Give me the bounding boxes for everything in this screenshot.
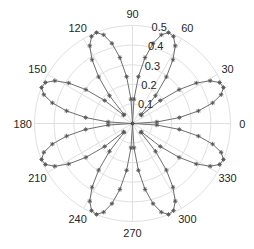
asterisk-marker (103, 98, 107, 102)
r-tick-label: 0.3 (145, 60, 160, 72)
asterisk-marker (67, 162, 71, 166)
asterisk-marker (42, 92, 46, 96)
asterisk-marker (94, 30, 98, 34)
theta-tick-label: 150 (28, 63, 46, 75)
asterisk-marker (159, 210, 163, 214)
asterisk-marker (96, 168, 100, 172)
theta-tick-label: 90 (126, 8, 138, 20)
asterisk-marker (88, 44, 92, 48)
theta-tick-label: 30 (221, 63, 233, 75)
asterisk-marker (110, 41, 114, 45)
asterisk-marker (171, 34, 175, 38)
asterisk-marker (83, 127, 87, 131)
asterisk-marker (196, 134, 200, 138)
asterisk-marker (53, 79, 57, 83)
asterisk-marker (177, 155, 181, 159)
asterisk-marker (177, 115, 181, 119)
asterisk-marker (43, 162, 47, 166)
asterisk-marker (153, 94, 157, 98)
asterisk-marker (132, 146, 136, 150)
asterisk-marker (194, 81, 198, 85)
asterisk-marker (217, 80, 221, 84)
theta-tick-label: 270 (123, 227, 141, 239)
asterisk-marker (158, 98, 162, 102)
asterisk-marker (158, 144, 162, 148)
asterisk-marker (106, 123, 110, 127)
theta-tick-label: 210 (28, 172, 46, 184)
asterisk-marker (166, 212, 170, 216)
theta-tick-label: 0 (239, 118, 245, 130)
asterisk-marker (129, 97, 133, 101)
r-tick-label: 0.4 (148, 40, 163, 52)
theta-tick-label: 60 (181, 22, 193, 34)
asterisk-marker (136, 74, 140, 78)
asterisk-marker (124, 168, 128, 172)
polar-plot: 0306090120150180210240270300330 0.10.20.… (0, 0, 254, 249)
asterisk-marker (96, 75, 100, 79)
asterisk-marker (217, 162, 221, 166)
asterisk-marker (90, 185, 94, 189)
asterisk-marker (164, 168, 168, 172)
asterisk-marker (107, 94, 111, 98)
asterisk-marker (84, 87, 88, 91)
asterisk-marker (194, 162, 198, 166)
asterisk-marker (208, 164, 212, 168)
asterisk-marker (136, 168, 140, 172)
asterisk-marker (43, 80, 47, 84)
r-tick-label: 0.1 (138, 98, 153, 110)
asterisk-marker (196, 109, 200, 113)
theta-tick-label: 240 (68, 213, 86, 225)
asterisk-marker (171, 58, 175, 62)
asterisk-marker (219, 150, 223, 154)
asterisk-marker (103, 144, 107, 148)
asterisk-marker (153, 149, 157, 153)
asterisk-marker (94, 212, 98, 216)
asterisk-marker (39, 85, 43, 89)
asterisk-marker (164, 75, 168, 79)
asterisk-marker (173, 44, 177, 48)
theta-tick-label: 180 (14, 118, 32, 130)
theta-tick-label: 120 (68, 22, 86, 34)
asterisk-marker (84, 155, 88, 159)
asterisk-marker (221, 85, 225, 89)
asterisk-marker (50, 142, 54, 146)
theta-tick-label: 330 (218, 172, 236, 184)
r-tick-label: 0.2 (141, 79, 156, 91)
asterisk-marker (50, 101, 54, 105)
asterisk-marker (219, 92, 223, 96)
theta-tick-label: 300 (178, 213, 196, 225)
asterisk-marker (143, 187, 147, 191)
asterisk-marker (42, 150, 46, 154)
asterisk-marker (64, 109, 68, 113)
asterisk-marker (155, 123, 159, 127)
asterisk-marker (90, 58, 94, 62)
asterisk-marker (208, 79, 212, 83)
asterisk-marker (177, 127, 181, 131)
asterisk-marker (210, 101, 214, 105)
asterisk-marker (110, 201, 114, 205)
asterisk-marker (171, 208, 175, 212)
asterisk-marker (171, 185, 175, 189)
asterisk-marker (88, 199, 92, 203)
asterisk-marker (173, 199, 177, 203)
asterisk-marker (39, 157, 43, 161)
asterisk-marker (118, 55, 122, 59)
asterisk-marker (177, 87, 181, 91)
asterisk-marker (101, 33, 105, 37)
asterisk-marker (118, 187, 122, 191)
asterisk-marker (101, 210, 105, 214)
asterisk-marker (67, 81, 71, 85)
asterisk-marker (64, 134, 68, 138)
asterisk-marker (121, 113, 125, 117)
asterisk-marker (124, 74, 128, 78)
asterisk-marker (53, 164, 57, 168)
asterisk-marker (139, 130, 143, 134)
asterisk-marker (130, 121, 134, 125)
asterisk-marker (210, 142, 214, 146)
asterisk-marker (89, 34, 93, 38)
asterisk-marker (83, 115, 87, 119)
r-tick-label: 0.5 (152, 21, 167, 33)
asterisk-marker (159, 33, 163, 37)
asterisk-marker (89, 208, 93, 212)
asterisk-marker (166, 30, 170, 34)
